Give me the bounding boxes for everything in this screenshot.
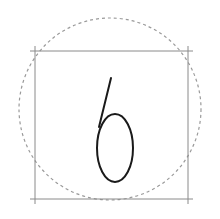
glyph-canvas: [0, 0, 220, 219]
circle-guide: [19, 18, 201, 200]
digit-six-glyph: [97, 78, 133, 182]
square-guide: [30, 46, 193, 204]
